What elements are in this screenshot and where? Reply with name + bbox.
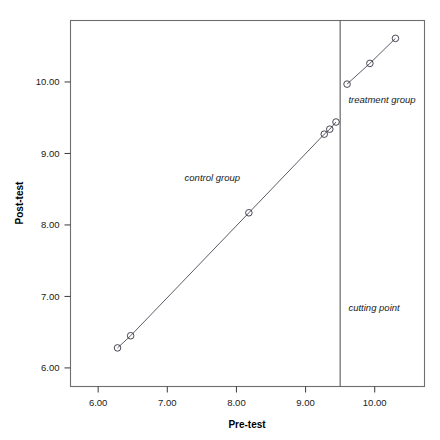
x-axis-title: Pre-test xyxy=(228,419,266,430)
data-point-marker xyxy=(246,209,253,216)
data-point-marker xyxy=(367,60,374,67)
y-tick-label: 10.00 xyxy=(36,76,60,87)
y-axis-title: Post-test xyxy=(14,181,25,224)
data-point-marker xyxy=(344,81,351,88)
data-point-marker xyxy=(333,119,340,126)
y-tick-label: 7.00 xyxy=(41,291,60,302)
x-tick-label: 6.00 xyxy=(89,397,108,408)
chart-figure: 6.007.008.009.0010.00 6.007.008.009.0010… xyxy=(0,0,440,440)
data-point-marker xyxy=(127,332,134,339)
annotation-label: treatment group xyxy=(348,94,415,105)
annotation-label: cutting point xyxy=(348,302,400,313)
y-tick-label: 9.00 xyxy=(41,148,60,159)
x-tick-label: 9.00 xyxy=(296,397,315,408)
chart-background xyxy=(0,0,440,440)
data-point-marker xyxy=(114,345,121,352)
data-point-marker xyxy=(321,131,328,138)
annotation-label: control group xyxy=(185,172,240,183)
x-tick-label: 10.00 xyxy=(363,397,387,408)
y-tick-label: 8.00 xyxy=(41,219,60,230)
data-point-marker xyxy=(326,126,333,133)
y-tick-label: 6.00 xyxy=(41,362,60,373)
x-tick-label: 7.00 xyxy=(158,397,177,408)
scatter-plot: 6.007.008.009.0010.00 6.007.008.009.0010… xyxy=(0,0,440,440)
data-point-marker xyxy=(392,35,399,42)
x-tick-label: 8.00 xyxy=(227,397,246,408)
